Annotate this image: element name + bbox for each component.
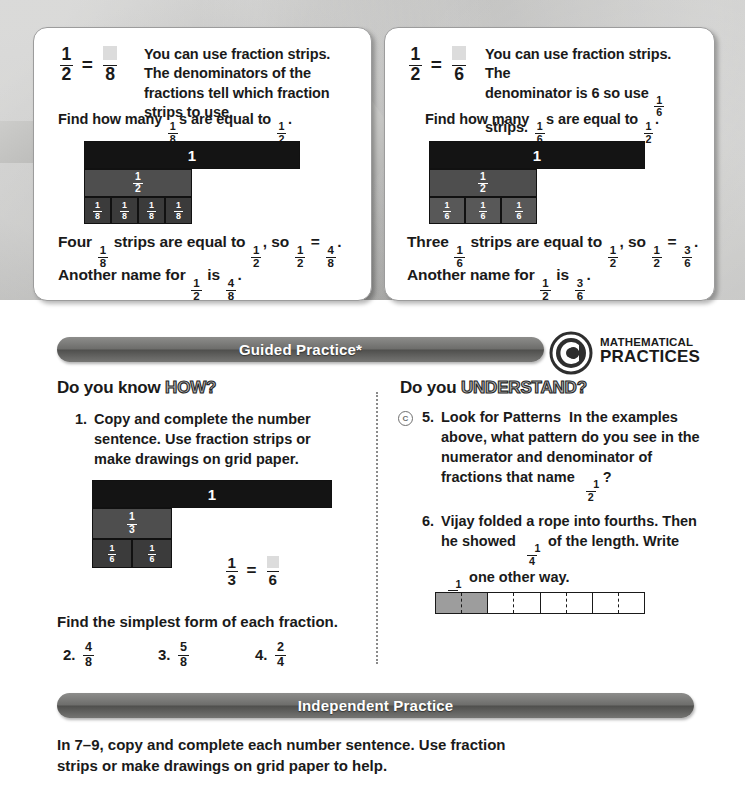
mathematical-practices-label: MATHEMATICAL PRACTICES [600,336,700,366]
example2-equation: 12 = 6 [407,46,470,83]
independent-practice-banner: Independent Practice [57,693,694,718]
rope-quarter-shaded [436,593,488,613]
question-5: 5. Look for Patterns In the examples abo… [417,407,707,503]
strip-unit: 16 [501,197,537,224]
independent-practice-intro: In 7–9, copy and complete each number se… [57,735,527,776]
answer-blank [103,46,117,60]
guided-practice-banner: Guided Practice* [57,337,544,362]
simple-item-2: 2. 48 [63,641,96,668]
example1-find-line: Find how many 18s are equal to 12. [58,110,292,145]
answer-blank [267,556,279,568]
do-you-understand-heading: Do you UNDERSTAND? [400,378,587,398]
question-6-number: 6. [417,511,434,602]
example1-fraction-strips: 1 12 18 18 18 18 [84,141,300,224]
strip-whole: 1 [92,480,332,508]
question-6-rope-diagram [435,592,645,614]
example2-conclusion: Three 16 strips are equal to 12, so 12 =… [407,232,698,269]
strip-whole: 1 [84,141,300,169]
example1-conclusion: Four 18 strips are equal to 12, so 12 = … [58,232,342,269]
strip-unit: 18 [111,197,138,224]
strip-unit: 16 [92,539,132,568]
strip-sixths-row: 16 16 [92,539,332,568]
rope-quarter [593,593,644,613]
question-1: 1. Copy and complete the number sentence… [70,409,335,469]
simple-item-4: 4. 24 [255,641,288,668]
question-5-text: Look for Patterns In the examples above,… [441,407,707,503]
strip-third: 13 [92,508,172,539]
rope-quarter [541,593,593,613]
strip-unit: 16 [465,197,501,224]
question-1-number: 1. [70,409,87,469]
example1-another-name: Another name for 12 is 48. [58,265,242,302]
simple-item-3: 3. 58 [158,641,191,668]
example2-find-line: Find how many 16s are equal to 12. [425,110,659,145]
strip-units-row: 16 16 16 [429,197,645,224]
example1-equation: 12 = 8 [58,46,121,83]
example-panel-eighths: 12 = 8 You can use fraction strips. The … [33,27,372,301]
mathematical-practices-logo-icon [549,331,593,375]
strip-unit: 16 [429,197,465,224]
example2-fraction-strips: 1 12 16 16 16 [429,141,645,224]
strip-whole: 1 [429,141,645,169]
question-1-equation: 13 = 6 [224,555,282,587]
example-panel-sixths: 12 = 6 You can use fraction strips. The … [384,27,715,301]
column-divider [376,392,378,664]
simplest-form-prompt: Find the simplest form of each fraction. [57,612,338,633]
question-6: 6. Vijay folded a rope into fourths. The… [417,511,697,602]
strip-unit: 18 [84,197,111,224]
strip-half: 12 [429,169,537,197]
rope-quarter [488,593,540,613]
strip-units-row: 18 18 18 18 [84,197,300,224]
example2-another-name: Another name for 12 is 36. [407,265,591,302]
mathematical-practices-marker-icon: C [398,411,413,426]
do-you-know-how-heading: Do you know HOW? [57,378,216,398]
independent-practice-label: Independent Practice [298,697,454,714]
guided-practice-label: Guided Practice* [239,341,362,358]
question-1-text: Copy and complete the number sentence. U… [94,409,335,469]
answer-blank [452,46,466,60]
strip-unit: 18 [138,197,165,224]
strip-half: 12 [84,169,192,197]
strip-unit: 18 [165,197,192,224]
question-6-text: Vijay folded a rope into fourths. Then h… [441,511,697,602]
question-5-number: 5. [417,407,434,503]
strip-unit: 16 [132,539,172,568]
question-1-fraction-strips: 1 13 16 16 [92,480,332,568]
